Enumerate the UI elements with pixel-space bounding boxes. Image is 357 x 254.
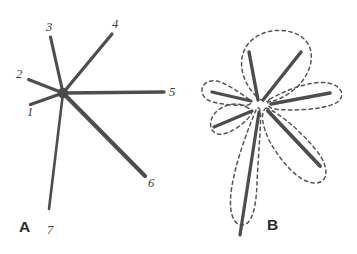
ray-1: [214, 111, 252, 127]
panel-a-rays: [29, 34, 165, 209]
ray-7: [240, 112, 259, 235]
panel-a: 1 2 3 4 5 6 7 A: [16, 17, 175, 237]
ray-2: [212, 92, 251, 101]
panel-b-rays: [212, 52, 330, 235]
ray-label-6: 6: [148, 176, 155, 190]
panel-label-b: B: [267, 216, 278, 233]
ray-6: [63, 93, 145, 176]
panel-label-a: A: [19, 218, 30, 235]
ray-label-2: 2: [16, 67, 22, 81]
figure-container: 1 2 3 4 5 6 7 A: [0, 0, 357, 254]
ray-5: [63, 92, 164, 93]
hub-dot: [58, 88, 68, 98]
ray-label-1: 1: [27, 105, 33, 119]
ray-3: [51, 37, 64, 93]
ray-7: [49, 93, 63, 209]
ray-label-5: 5: [169, 85, 175, 99]
ray-label-4: 4: [112, 17, 118, 31]
ray-6: [268, 111, 320, 166]
figure-canvas: 1 2 3 4 5 6 7 A: [0, 0, 357, 254]
panel-b-lobe-outlines: [202, 30, 342, 225]
lobe-outline-ray-6: [263, 108, 326, 183]
ray-label-7: 7: [47, 223, 54, 237]
panel-b: B: [202, 30, 342, 235]
ray-2: [29, 80, 64, 94]
lobe-outline-ray-2: [202, 81, 251, 106]
ray-label-3: 3: [45, 20, 52, 34]
ray-4: [63, 34, 112, 93]
